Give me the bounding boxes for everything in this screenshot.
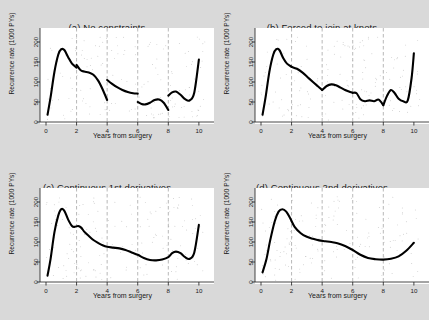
svg-text:2: 2	[290, 127, 294, 134]
chart-panel-b: (b) Forced to join at knots Recurrence r…	[215, 0, 429, 160]
svg-text:0: 0	[247, 120, 254, 124]
svg-text:10: 10	[410, 127, 417, 134]
svg-text:200: 200	[32, 36, 39, 47]
svg-text:50: 50	[32, 98, 39, 105]
svg-text:8: 8	[167, 287, 171, 294]
svg-text:50: 50	[247, 98, 254, 105]
chart-panel-d: (d) Continuous 2nd derivatives Recurrenc…	[215, 160, 429, 320]
svg-text:150: 150	[247, 216, 254, 227]
svg-text:0: 0	[247, 280, 254, 284]
svg-text:8: 8	[167, 127, 171, 134]
svg-text:4: 4	[320, 287, 324, 294]
panel-a-plot: 0501001502000246810	[0, 0, 214, 160]
svg-text:0: 0	[32, 280, 39, 284]
svg-text:8: 8	[382, 287, 386, 294]
svg-text:200: 200	[32, 196, 39, 207]
chart-panel-c: (c) Continuous 1st derivatives Recurrenc…	[0, 160, 214, 320]
svg-text:0: 0	[259, 127, 263, 134]
svg-text:6: 6	[351, 287, 355, 294]
svg-text:0: 0	[44, 287, 48, 294]
svg-text:200: 200	[247, 196, 254, 207]
svg-text:0: 0	[44, 127, 48, 134]
svg-text:150: 150	[247, 56, 254, 67]
svg-text:100: 100	[247, 236, 254, 247]
svg-text:2: 2	[290, 287, 294, 294]
svg-text:150: 150	[32, 216, 39, 227]
svg-text:4: 4	[320, 127, 324, 134]
svg-text:8: 8	[382, 127, 386, 134]
svg-text:50: 50	[32, 258, 39, 265]
svg-text:2: 2	[75, 127, 79, 134]
svg-text:100: 100	[247, 76, 254, 87]
panel-b-plot: 0501001502000246810	[215, 0, 429, 160]
chart-panel-a: (a) No constraints Recurrence rate (1000…	[0, 0, 214, 160]
svg-text:100: 100	[32, 236, 39, 247]
svg-text:6: 6	[136, 287, 140, 294]
svg-text:4: 4	[105, 287, 109, 294]
svg-text:6: 6	[351, 127, 355, 134]
svg-text:6: 6	[136, 127, 140, 134]
svg-text:4: 4	[105, 127, 109, 134]
svg-text:10: 10	[410, 287, 417, 294]
svg-text:10: 10	[195, 127, 202, 134]
svg-text:100: 100	[32, 76, 39, 87]
svg-text:0: 0	[32, 120, 39, 124]
svg-text:200: 200	[247, 36, 254, 47]
svg-text:10: 10	[195, 287, 202, 294]
svg-text:2: 2	[75, 287, 79, 294]
svg-text:0: 0	[259, 287, 263, 294]
svg-text:150: 150	[32, 56, 39, 67]
svg-text:50: 50	[247, 258, 254, 265]
figure-panel-grid: (a) No constraints Recurrence rate (1000…	[0, 0, 429, 320]
panel-c-plot: 0501001502000246810	[0, 160, 214, 320]
panel-d-plot: 0501001502000246810	[215, 160, 429, 320]
